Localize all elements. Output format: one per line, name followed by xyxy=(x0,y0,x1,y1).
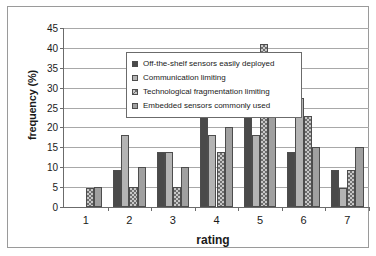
y-tick-label: 45 xyxy=(47,23,58,34)
figure-frame: frequency (%) rating 051015202530354045 … xyxy=(7,6,369,248)
x-tick-label: 6 xyxy=(301,214,307,226)
legend-item-label: Off-the-shelf sensors easily deployed xyxy=(143,59,274,69)
bar xyxy=(138,167,146,207)
x-tick-label: 5 xyxy=(257,214,263,226)
x-tick-label: 1 xyxy=(83,214,89,226)
bar xyxy=(268,107,276,207)
legend-item-label: Communication limiting xyxy=(143,73,226,83)
legend-item: Off-the-shelf sensors easily deployed xyxy=(132,57,296,71)
bar xyxy=(157,152,165,207)
bar xyxy=(304,116,312,207)
legend-item-label: Embedded sensors commonly used xyxy=(143,101,270,111)
legend-item: Communication limiting xyxy=(132,71,296,85)
bar xyxy=(331,170,339,207)
x-tick-label: 7 xyxy=(344,214,350,226)
bar xyxy=(252,135,260,207)
x-tick-mark xyxy=(108,207,109,211)
bar xyxy=(208,135,216,207)
x-tick-label: 3 xyxy=(170,214,176,226)
y-tick-label: 30 xyxy=(47,82,58,93)
x-tick-mark xyxy=(282,207,283,211)
bar xyxy=(312,147,320,207)
legend-item: Embedded sensors commonly used xyxy=(132,99,296,113)
y-tick-mark xyxy=(60,108,64,109)
x-tick-label: 4 xyxy=(213,214,219,226)
y-tick-label: 40 xyxy=(47,42,58,53)
bar xyxy=(129,187,137,207)
y-tick-label: 35 xyxy=(47,62,58,73)
legend-swatch-icon xyxy=(132,75,138,81)
bar xyxy=(121,135,129,207)
gridline xyxy=(64,48,369,49)
bar xyxy=(181,167,189,207)
bar xyxy=(217,152,225,207)
legend-swatch-icon xyxy=(132,61,138,67)
bar xyxy=(86,188,94,207)
gridline xyxy=(64,147,369,148)
y-tick-label: 10 xyxy=(47,162,58,173)
y-tick-label: 20 xyxy=(47,122,58,133)
bar xyxy=(287,152,295,207)
chart-figure: frequency (%) rating 051015202530354045 … xyxy=(0,0,376,256)
y-tick-label: 25 xyxy=(47,102,58,113)
y-tick-mark xyxy=(60,147,64,148)
x-tick-mark xyxy=(151,207,152,211)
y-tick-mark xyxy=(60,28,64,29)
legend-swatch-icon xyxy=(132,103,138,109)
plot-area: 051015202530354045 1234567 Off-the-shelf… xyxy=(63,28,369,208)
gridline xyxy=(64,127,369,128)
chart-legend: Off-the-shelf sensors easily deployedCom… xyxy=(126,52,302,118)
y-axis-label: frequency (%) xyxy=(26,50,38,160)
y-tick-mark xyxy=(60,207,64,208)
y-tick-mark xyxy=(60,167,64,168)
x-tick-mark xyxy=(369,207,370,211)
x-tick-mark xyxy=(195,207,196,211)
x-tick-mark xyxy=(325,207,326,211)
y-tick-label: 15 xyxy=(47,142,58,153)
x-axis-label: rating xyxy=(53,233,373,247)
x-tick-label: 2 xyxy=(126,214,132,226)
y-tick-label: 5 xyxy=(52,182,58,193)
bar xyxy=(339,188,347,207)
bar xyxy=(355,147,363,207)
y-tick-mark xyxy=(60,187,64,188)
y-tick-mark xyxy=(60,127,64,128)
x-tick-mark xyxy=(238,207,239,211)
bar xyxy=(225,127,233,207)
legend-swatch-icon xyxy=(132,89,138,95)
bar xyxy=(113,170,121,207)
gridline xyxy=(64,28,369,29)
legend-item-label: Technological fragmentation limiting xyxy=(143,87,270,97)
y-tick-mark xyxy=(60,48,64,49)
bar xyxy=(94,187,102,207)
y-tick-mark xyxy=(60,88,64,89)
y-tick-mark xyxy=(60,68,64,69)
bar xyxy=(173,187,181,207)
legend-item: Technological fragmentation limiting xyxy=(132,85,296,99)
bar xyxy=(347,170,355,207)
y-tick-label: 0 xyxy=(52,202,58,213)
bar xyxy=(165,152,173,207)
